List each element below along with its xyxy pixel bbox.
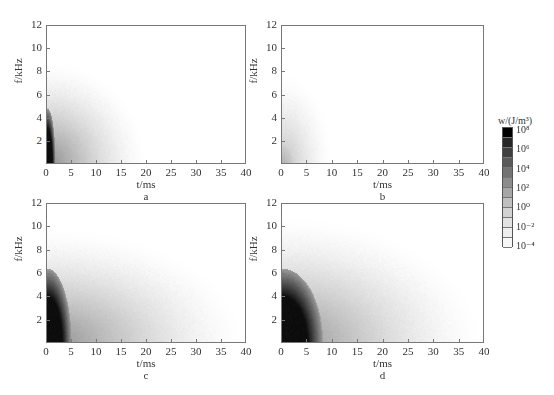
colorbar-tick-label: 10² bbox=[516, 183, 529, 193]
x-tick-label: 35 bbox=[211, 346, 231, 357]
x-tick-label: 40 bbox=[474, 346, 494, 357]
y-tick-label: 12 bbox=[22, 197, 42, 208]
colorbar-segment bbox=[503, 198, 512, 208]
heatmap-plot-c bbox=[46, 203, 246, 343]
x-axis-label: t/ms bbox=[353, 178, 413, 190]
x-axis-label: t/ms bbox=[116, 357, 176, 369]
colorbar-segment bbox=[503, 128, 512, 138]
x-tick-mark bbox=[96, 160, 97, 163]
x-tick-label: 30 bbox=[186, 346, 206, 357]
colorbar-segment bbox=[503, 238, 512, 248]
y-tick-label: 2 bbox=[22, 314, 42, 325]
x-tick-mark bbox=[171, 339, 172, 342]
y-tick-label: 6 bbox=[257, 89, 277, 100]
x-tick-label: 5 bbox=[61, 167, 81, 178]
colorbar-segment bbox=[503, 188, 512, 198]
y-tick-mark bbox=[282, 141, 285, 142]
x-tick-label: 30 bbox=[423, 346, 443, 357]
x-tick-mark bbox=[332, 339, 333, 342]
y-tick-mark bbox=[47, 226, 50, 227]
y-tick-label: 4 bbox=[22, 290, 42, 301]
y-axis-label: f/kHz bbox=[247, 51, 259, 91]
y-tick-mark bbox=[47, 203, 50, 204]
x-tick-mark bbox=[146, 339, 147, 342]
heatmap-canvas-c bbox=[47, 204, 245, 342]
y-tick-mark bbox=[47, 118, 50, 119]
colorbar-segment bbox=[503, 138, 512, 148]
x-tick-mark bbox=[221, 160, 222, 163]
x-tick-label: 35 bbox=[449, 346, 469, 357]
y-tick-mark bbox=[282, 95, 285, 96]
x-tick-mark bbox=[383, 160, 384, 163]
y-tick-mark bbox=[47, 95, 50, 96]
x-tick-mark bbox=[121, 160, 122, 163]
y-tick-mark bbox=[282, 71, 285, 72]
y-axis-label: f/kHz bbox=[12, 51, 24, 91]
y-tick-label: 10 bbox=[257, 220, 277, 231]
y-tick-label: 12 bbox=[257, 19, 277, 30]
panel-label: d bbox=[373, 369, 393, 381]
y-tick-label: 4 bbox=[22, 112, 42, 123]
colorbar bbox=[502, 127, 513, 247]
x-tick-mark bbox=[433, 339, 434, 342]
x-tick-mark bbox=[408, 160, 409, 163]
y-tick-label: 4 bbox=[257, 290, 277, 301]
y-tick-mark bbox=[47, 250, 50, 251]
colorbar-segment bbox=[503, 178, 512, 188]
x-tick-mark bbox=[146, 160, 147, 163]
colorbar-tick-label: 10⁻² bbox=[516, 222, 534, 232]
x-tick-mark bbox=[306, 160, 307, 163]
y-tick-mark bbox=[282, 250, 285, 251]
colorbar-segment bbox=[503, 148, 512, 158]
x-tick-mark bbox=[357, 160, 358, 163]
x-tick-label: 5 bbox=[296, 346, 316, 357]
x-tick-label: 0 bbox=[36, 167, 56, 178]
panel-label: c bbox=[136, 369, 156, 381]
y-axis-label: f/kHz bbox=[247, 229, 259, 269]
x-tick-label: 10 bbox=[86, 346, 106, 357]
y-tick-mark bbox=[47, 25, 50, 26]
y-tick-mark bbox=[282, 320, 285, 321]
x-tick-mark bbox=[433, 160, 434, 163]
y-tick-label: 10 bbox=[257, 42, 277, 53]
x-tick-mark bbox=[71, 160, 72, 163]
y-tick-mark bbox=[282, 203, 285, 204]
heatmap-canvas-b bbox=[282, 26, 483, 163]
heatmap-plot-d bbox=[281, 203, 484, 343]
x-tick-label: 25 bbox=[398, 167, 418, 178]
x-tick-label: 15 bbox=[111, 346, 131, 357]
x-tick-label: 15 bbox=[347, 346, 367, 357]
x-tick-mark bbox=[459, 339, 460, 342]
y-tick-mark bbox=[282, 226, 285, 227]
colorbar-tick-label: 10⁶ bbox=[516, 144, 530, 154]
y-tick-label: 6 bbox=[22, 89, 42, 100]
x-tick-label: 20 bbox=[373, 346, 393, 357]
x-tick-label: 30 bbox=[423, 167, 443, 178]
x-tick-label: 20 bbox=[136, 346, 156, 357]
y-tick-mark bbox=[282, 48, 285, 49]
y-tick-label: 8 bbox=[22, 65, 42, 76]
y-tick-label: 8 bbox=[22, 244, 42, 255]
heatmap-plot-b bbox=[281, 25, 484, 164]
x-tick-mark bbox=[121, 339, 122, 342]
x-tick-label: 0 bbox=[271, 167, 291, 178]
x-tick-mark bbox=[306, 339, 307, 342]
y-tick-label: 12 bbox=[22, 19, 42, 30]
x-axis-label: t/ms bbox=[116, 178, 176, 190]
x-tick-label: 30 bbox=[186, 167, 206, 178]
colorbar-tick-label: 10⁻⁴ bbox=[516, 241, 535, 251]
y-tick-mark bbox=[47, 320, 50, 321]
x-tick-label: 35 bbox=[211, 167, 231, 178]
x-tick-mark bbox=[71, 339, 72, 342]
colorbar-tick-label: 10⁸ bbox=[516, 125, 530, 135]
y-tick-label: 6 bbox=[22, 267, 42, 278]
x-tick-label: 20 bbox=[373, 167, 393, 178]
x-tick-label: 35 bbox=[449, 167, 469, 178]
x-tick-label: 40 bbox=[474, 167, 494, 178]
colorbar-segment bbox=[503, 218, 512, 228]
colorbar-tick-label: 10⁴ bbox=[516, 164, 530, 174]
x-tick-label: 25 bbox=[161, 167, 181, 178]
x-tick-label: 40 bbox=[236, 167, 256, 178]
y-tick-mark bbox=[282, 118, 285, 119]
heatmap-plot-a bbox=[46, 25, 246, 164]
